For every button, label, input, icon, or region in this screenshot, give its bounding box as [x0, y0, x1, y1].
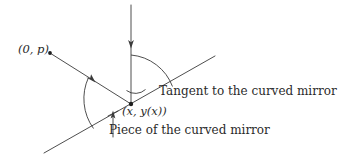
- incident-ray-arrow-head-icon: [86, 74, 95, 82]
- mirror-piece-label: Piece of the curved mirror: [109, 124, 270, 136]
- angle-arc-small: [127, 90, 146, 94]
- angle-arc-normal-tangent: [131, 55, 173, 87]
- optics-diagram: (0, p) (x, y(x)) Tangent to the curved m…: [0, 0, 341, 160]
- angle-arc-incidence: [84, 78, 94, 129]
- contact-point-label: (x, y(x)): [122, 106, 167, 118]
- source-point-label: (0, p): [18, 44, 49, 56]
- tangent-line-label: Tangent to the curved mirror: [159, 85, 337, 97]
